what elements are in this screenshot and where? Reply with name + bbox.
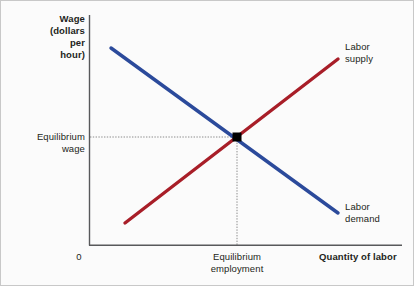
labor-demand-curve-label: Labor demand [345,201,380,224]
labor-market-diagram: Wage (dollars per hour) Equilibrium wage… [0,0,414,286]
equilibrium-point-marker [233,133,242,142]
labor-demand-curve [111,48,338,213]
labor-supply-curve-label: Labor supply [345,41,373,64]
y-axis-title: Wage (dollars per hour) [50,13,85,61]
equilibrium-employment-label: Equilibrium employment [182,251,292,274]
x-axis-title: Quantity of labor [319,251,397,263]
labor-supply-curve [125,59,338,223]
origin-label: 0 [73,251,85,263]
equilibrium-wage-label: Equilibrium wage [37,131,85,154]
